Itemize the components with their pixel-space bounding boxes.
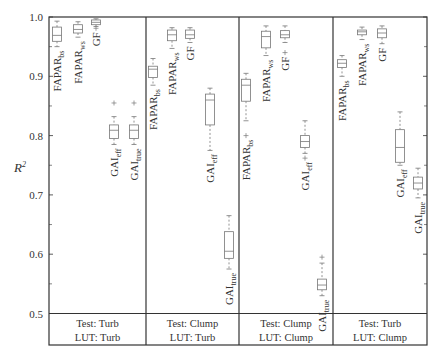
box-iqr <box>186 30 195 38</box>
box-label: GAItrue <box>223 273 238 305</box>
box-iqr <box>206 94 215 125</box>
panel-2: FAPARbsFAPARwsGFGAIeffGAItrue <box>147 28 238 305</box>
box-label: FAPARws <box>166 52 181 95</box>
boxplot-chart: 0.50.60.70.80.91.0 R2 FAPARbsFAPARwsGFGA… <box>0 0 441 360</box>
box-iqr <box>242 79 251 101</box>
box-fapar-bs: FAPARbs <box>336 56 351 122</box>
box-label: GF <box>90 32 102 46</box>
box-gai-true: GAItrue <box>316 255 331 332</box>
box-gf: GF <box>376 26 388 62</box>
box-label: GAIeff <box>108 148 123 177</box>
box-label: GAItrue <box>412 201 427 233</box>
lut-condition-label: LUT: Clump <box>259 332 313 343</box>
box-gai-eff: GAIeff <box>394 112 409 198</box>
box-iqr <box>53 27 62 41</box>
box-label: GAItrue <box>128 148 143 180</box>
plot-frame <box>49 17 427 345</box>
test-condition-label: Test: Clump <box>260 318 311 329</box>
test-condition-label: Test: Turb <box>76 318 119 329</box>
box-fapar-ws: FAPARws <box>260 26 275 102</box>
box-iqr <box>358 30 367 35</box>
box-fapar-ws: FAPARws <box>166 28 181 95</box>
box-gf: GF <box>90 19 102 47</box>
box-gai-true: GAItrue <box>412 168 427 234</box>
box-gai-true: GAItrue <box>223 216 238 305</box>
box-iqr <box>262 31 271 48</box>
box-iqr <box>281 31 290 38</box>
box-label: GAIeff <box>204 154 219 183</box>
box-label: FAPARbs <box>240 140 255 181</box>
box-gai-eff: GAIeff <box>204 88 219 183</box>
box-fapar-bs: FAPARbs <box>147 59 162 130</box>
box-label: FAPARws <box>260 60 275 103</box>
box-iqr <box>396 130 405 163</box>
box-label: FAPARws <box>72 41 87 84</box>
box-label: GAIeff <box>299 162 314 191</box>
y-tick-label: 0.6 <box>29 248 43 260</box>
box-fapar-bs: FAPARbs <box>51 21 66 91</box>
box-label: FAPARbs <box>147 89 162 130</box>
y-tick-label: 0.5 <box>29 308 43 320</box>
box-label: GAItrue <box>316 299 331 331</box>
box-label: GF <box>376 48 388 62</box>
frame-rect <box>49 17 427 345</box>
box-iqr <box>130 125 139 139</box>
lut-condition-label: LUT: Clump <box>353 332 407 343</box>
box-iqr <box>318 279 327 290</box>
panel-1: FAPARbsFAPARwsGFGAIeffGAItrue <box>51 19 143 181</box>
box-gai-true: GAItrue <box>128 100 143 180</box>
test-condition-label: Test: Turb <box>359 318 402 329</box>
condition-table: Test: TurbLUT: TurbTest: ClumpLUT: TurbT… <box>75 318 407 343</box>
y-axis-label: R2 <box>13 160 26 175</box>
box-iqr <box>110 125 119 139</box>
y-tick-label: 1.0 <box>29 11 43 23</box>
lut-condition-label: LUT: Turb <box>75 332 120 343</box>
box-label: GF <box>279 57 291 71</box>
box-label: FAPARws <box>356 44 371 87</box>
box-iqr <box>225 232 234 259</box>
lut-condition-label: LUT: Turb <box>170 332 215 343</box>
box-gf: GF <box>279 26 291 71</box>
box-gai-eff: GAIeff <box>299 121 314 191</box>
box-iqr <box>74 25 83 33</box>
box-label: GF <box>184 46 196 60</box>
box-fapar-ws: FAPARws <box>356 27 371 86</box>
box-label: FAPARbs <box>336 80 351 121</box>
y-tick-label: 0.9 <box>29 70 43 82</box>
test-condition-label: Test: Clump <box>167 318 218 329</box>
box-iqr <box>149 66 158 77</box>
box-fapar-bs: FAPARbs <box>240 73 255 180</box>
box-label: GAIeff <box>394 169 409 198</box>
panel-3: FAPARbsFAPARwsGFGAIeffGAItrue <box>240 26 331 332</box>
box-fapar-ws: FAPARws <box>72 22 87 84</box>
box-iqr <box>168 30 177 41</box>
box-gai-eff: GAIeff <box>108 100 123 176</box>
box-label: FAPARbs <box>51 51 66 92</box>
y-tick-label: 0.8 <box>29 130 43 142</box>
y-tick-label: 0.7 <box>29 189 43 201</box>
box-gf: GF <box>184 28 196 61</box>
panel-4: FAPARbsFAPARwsGFGAIeffGAItrue <box>336 26 427 234</box>
